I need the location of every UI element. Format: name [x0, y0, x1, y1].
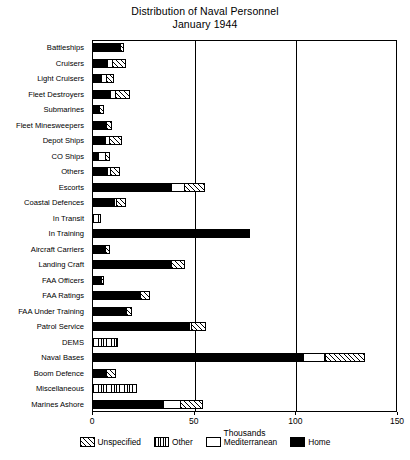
y-axis-label: Patrol Service: [0, 322, 88, 331]
bar-segment-unspec: [116, 198, 126, 207]
y-axis-label: Submarines: [0, 105, 88, 114]
bar-segment-unspec: [248, 229, 250, 238]
bar-row: [92, 260, 184, 269]
x-axis-tick-label: 100: [288, 416, 302, 426]
y-axis-label: Depot Ships: [0, 136, 88, 145]
bar-segment-unspec: [191, 322, 205, 331]
bar-row: [92, 152, 110, 161]
y-axis-label: Others: [0, 167, 88, 176]
bar-row: [92, 229, 249, 238]
bar-row: [92, 338, 118, 347]
x-axis-tick-mark: [92, 412, 93, 415]
bar-segment-home: [92, 353, 303, 362]
naval-personnel-chart: Distribution of Naval Personnel January …: [0, 0, 410, 460]
bar-row: [92, 59, 126, 68]
y-axis-label: Miscellaneous: [0, 384, 88, 393]
bar-segment-home: [92, 245, 105, 254]
bar-segment-unspec: [101, 276, 104, 285]
y-axis-label: Fleet Destroyers: [0, 90, 88, 99]
bar-row: [92, 384, 136, 393]
legend-swatch-other: [154, 437, 169, 447]
bar-segment-home: [92, 229, 249, 238]
bar-segment-unspec: [325, 353, 366, 362]
bar-segment-home: [92, 167, 107, 176]
bar-segment-unspec: [115, 90, 130, 99]
bar-segment-unspec: [106, 121, 112, 130]
bar-segment-other: [92, 384, 137, 393]
bar-row: [92, 105, 103, 114]
bar-segment-unspec: [99, 105, 104, 114]
legend-swatch-med: [206, 437, 221, 447]
x-axis-tick-mark: [295, 412, 296, 415]
bar-segment-home: [92, 43, 120, 52]
y-axis-label: DEMS: [0, 338, 88, 347]
bar-segment-unspec: [184, 183, 204, 192]
chart-title-block: Distribution of Naval Personnel January …: [0, 5, 410, 31]
y-axis-label: FAA Ratings: [0, 291, 88, 300]
bar-segment-med: [303, 353, 325, 362]
y-axis-label: FAA Officers: [0, 276, 88, 285]
chart-subtitle: January 1944: [0, 18, 410, 31]
bar-segment-home: [92, 90, 110, 99]
y-axis-label: CO Ships: [0, 152, 88, 161]
y-axis-label: FAA Under Training: [0, 307, 88, 316]
bar-segment-home: [92, 260, 171, 269]
bar-segment-home: [92, 136, 105, 145]
legend-swatch-home: [290, 437, 305, 447]
bar-segment-med: [171, 183, 185, 192]
bar-segment-unspec: [112, 59, 126, 68]
y-axis-label: Coastal Defences: [0, 198, 88, 207]
bar-row: [92, 353, 365, 362]
legend-label: Unspecified: [98, 437, 141, 447]
chart-legend: UnspecifiedOtherMediterraneanHome: [0, 437, 410, 447]
y-axis-label: Aircraft Carriers: [0, 245, 88, 254]
bar-row: [92, 198, 126, 207]
y-axis-label: Cruisers: [0, 59, 88, 68]
bar-row: [92, 167, 120, 176]
bar-row: [92, 43, 123, 52]
bar-row: [92, 214, 101, 223]
x-axis-tick-label: 150: [390, 416, 404, 426]
bar-segment-home: [92, 291, 141, 300]
bar-segment-unspec: [126, 307, 132, 316]
bar-segment-home: [92, 400, 163, 409]
bar-segment-home: [92, 121, 105, 130]
bar-segment-home: [92, 183, 171, 192]
bar-segment-home: [92, 322, 190, 331]
y-axis-label: Battleships: [0, 43, 88, 52]
x-axis-tick-mark: [397, 412, 398, 415]
bar-segment-unspec: [171, 260, 185, 269]
bar-segment-unspec: [105, 152, 110, 161]
legend-swatch-unspec: [80, 437, 95, 447]
y-axis-label: Fleet Minesweepers: [0, 121, 88, 130]
legend-item-med: Mediterranean: [206, 437, 278, 447]
y-axis-label: In Transit: [0, 214, 88, 223]
x-axis-tick-label: 0: [90, 416, 95, 426]
bar-row: [92, 90, 130, 99]
bar-segment-unspec: [120, 43, 124, 52]
bar-row: [92, 291, 150, 300]
y-axis-label: Marines Ashore: [0, 400, 88, 409]
bar-segment-unspec: [180, 400, 202, 409]
y-axis-label: Naval Bases: [0, 353, 88, 362]
x-axis-tick-mark: [194, 412, 195, 415]
bar-row: [92, 400, 202, 409]
bar-segment-unspec: [110, 167, 120, 176]
y-axis-labels: BattleshipsCruisersLight CruisersFleet D…: [0, 40, 88, 412]
bar-row: [92, 307, 131, 316]
y-axis-label: In Training: [0, 229, 88, 238]
bar-row: [92, 121, 112, 130]
y-axis-label: Escorts: [0, 183, 88, 192]
legend-label: Other: [172, 437, 193, 447]
y-axis-label: Light Cruisers: [0, 74, 88, 83]
bar-segment-unspec: [140, 291, 150, 300]
bar-segment-home: [92, 59, 107, 68]
bars-layer: [92, 40, 397, 412]
y-axis-label: Boom Defence: [0, 369, 88, 378]
legend-label: Home: [308, 437, 330, 447]
x-axis-tick-label: 50: [189, 416, 198, 426]
legend-item-unspec: Unspecified: [80, 437, 141, 447]
legend-item-other: Other: [154, 437, 193, 447]
bar-segment-unspec: [106, 74, 114, 83]
bar-row: [92, 276, 103, 285]
